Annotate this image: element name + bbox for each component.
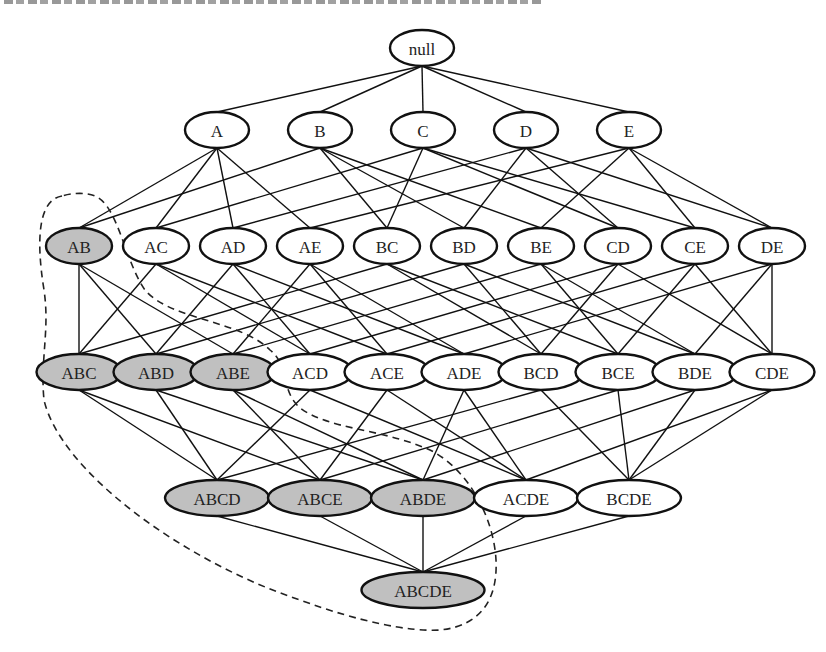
edge-E-AE [310,148,629,228]
edge-ADE-ABDE [423,390,464,480]
node-BC: BC [354,228,420,264]
node-AB: AB [46,228,112,264]
node-BCDE: BCDE [577,480,681,516]
edge-ABCD-ABCDE [217,516,423,572]
node-label: BCD [524,364,559,383]
node-DE: DE [739,228,805,264]
node-C: C [391,112,455,148]
edge-null-D [422,66,526,112]
edge-CDE-ACDE [526,390,772,480]
edge-BC-ABC [79,264,387,354]
node-BE: BE [508,228,574,264]
edge-ABE-ABDE [233,390,423,480]
edge-ABCE-ABCDE [320,516,423,572]
node-label: ACDE [503,490,549,509]
node-ABE: ABE [191,354,276,390]
node-label: CD [606,238,630,257]
node-BCE: BCE [576,354,661,390]
node-label: AD [221,238,246,257]
node-ACE: ACE [345,354,430,390]
edge-D-BD [464,148,526,228]
edge-BDE-ABDE [423,390,695,480]
node-ABDE: ABDE [371,480,475,516]
node-label: BCE [601,364,634,383]
node-label: ABCD [193,490,240,509]
node-label: BE [530,238,552,257]
edge-DE-ADE [464,264,772,354]
node-A: A [185,112,249,148]
edge-E-CE [629,148,695,228]
node-label: ACE [370,364,404,383]
node-label: ABC [62,364,97,383]
node-ABCDE: ABCDE [362,572,485,608]
node-AE: AE [277,228,343,264]
edge-AE-ACE [310,264,387,354]
node-CD: CD [585,228,651,264]
edge-null-C [422,66,423,112]
node-label: AE [299,238,322,257]
edge-BCDE-ABCDE [423,516,629,572]
node-BD: BD [431,228,497,264]
edge-CD-ACD [310,264,618,354]
node-label: null [409,40,436,59]
edge-BD-ABD [156,264,464,354]
node-ABD: ABD [114,354,199,390]
node-label: ACD [292,364,328,383]
node-label: ABCDE [394,582,452,601]
edge-ABE-ABCE [233,390,320,480]
edge-BD-BCD [464,264,541,354]
node-ABC: ABC [37,354,122,390]
edge-AD-ABD [156,264,233,354]
node-BDE: BDE [653,354,738,390]
node-label: BD [452,238,476,257]
node-E: E [597,112,661,148]
edge-CE-ACE [387,264,695,354]
edge-C-CD [423,148,618,228]
edge-null-A [217,66,422,112]
node-label: D [520,122,532,141]
node-D: D [494,112,558,148]
node-ACDE: ACDE [474,480,578,516]
edge-CE-BCE [618,264,695,354]
edge-BCD-BCDE [541,390,629,480]
edge-D-AD [233,148,526,228]
node-label: CDE [755,364,789,383]
node-label: A [211,122,224,141]
edge-CD-CDE [618,264,772,354]
node-ACD: ACD [268,354,353,390]
itemset-lattice-diagram: nullABCDEABACADAEBCBDBECDCEDEABCABDABEAC… [0,0,826,652]
node-CDE: CDE [730,354,815,390]
edge-BE-ABE [233,264,541,354]
edge-B-AB [79,148,320,228]
node-null: null [390,30,454,66]
node-BCD: BCD [499,354,584,390]
node-label: BCDE [606,490,651,509]
node-ABCD: ABCD [165,480,269,516]
edge-ACE-ACDE [387,390,526,480]
node-label: AC [144,238,168,257]
edge-BCE-ABCE [320,390,618,480]
dashed-boundary [40,193,496,630]
edge-null-B [320,66,422,112]
node-ADE: ADE [422,354,507,390]
edge-C-CE [423,148,695,228]
edge-ABC-ABCE [79,390,320,480]
node-label: ABE [216,364,250,383]
edge-BCE-BCDE [618,390,629,480]
node-label: ABCE [297,490,342,509]
node-label: AB [67,238,91,257]
node-AD: AD [200,228,266,264]
lattice-nodes: nullABCDEABACADAEBCBDBECDCEDEABCABDABEAC… [37,30,815,608]
node-ABCE: ABCE [268,480,372,516]
edge-BDE-BCDE [629,390,695,480]
node-B: B [288,112,352,148]
edge-ACDE-ABCDE [423,516,526,572]
node-label: CE [684,238,706,257]
node-label: BDE [678,364,712,383]
edge-E-BE [541,148,629,228]
node-AC: AC [123,228,189,264]
node-label: C [417,122,428,141]
edge-D-DE [526,148,772,228]
node-label: DE [761,238,784,257]
edge-D-CD [526,148,618,228]
